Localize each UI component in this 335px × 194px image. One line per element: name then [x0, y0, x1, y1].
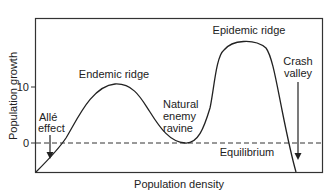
x-axis-label: Population density	[134, 178, 224, 190]
population-dynamics-diagram: 10 0 Population growth Population densit…	[0, 0, 335, 194]
ravine-label-line2: enemy	[163, 110, 197, 122]
y-axis-label: Population growth	[7, 52, 19, 140]
crash-valley-arrowhead	[295, 153, 302, 160]
epidemic-ridge-label: Epidemic ridge	[213, 24, 286, 36]
ravine-label-line1: Natural	[163, 98, 198, 110]
crash-valley-label-line1: Crash	[283, 55, 312, 67]
crash-valley-label-line2: valley	[284, 67, 313, 79]
ravine-label-line3: ravine	[163, 122, 193, 134]
endemic-ridge-label: Endemic ridge	[79, 68, 149, 80]
y-tick-label-0: 0	[23, 137, 29, 149]
equilibrium-label: Equilibrium	[220, 146, 274, 158]
alle-effect-label-line2: effect	[38, 122, 65, 134]
